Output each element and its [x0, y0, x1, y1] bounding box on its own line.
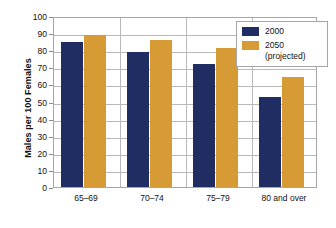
legend-sublabel: (projected)	[265, 51, 306, 62]
bar-chart: Males per 100 Females 100908070605040302…	[0, 0, 336, 228]
y-axis-tick-mark	[49, 137, 53, 138]
y-axis-tick-mark	[49, 68, 53, 69]
legend-label: 2050	[265, 40, 306, 51]
bar	[61, 42, 83, 187]
y-axis-tick-label: 70	[18, 64, 47, 73]
legend-label: 2000	[265, 26, 284, 37]
y-axis-tick-label: 100	[18, 13, 47, 22]
y-axis-tick-mark	[49, 51, 53, 52]
y-axis-tick-mark	[49, 154, 53, 155]
bar	[84, 35, 106, 187]
y-axis-tick-label: 50	[18, 99, 47, 108]
y-axis-tick-mark	[49, 103, 53, 104]
legend-item: 2000	[242, 26, 322, 37]
y-axis-tick-mark	[49, 34, 53, 35]
legend-swatch	[242, 27, 259, 36]
category-separator	[120, 18, 121, 187]
category-separator	[186, 18, 187, 187]
y-axis-tick-label: 10	[18, 167, 47, 176]
y-axis-tick-label: 0	[18, 184, 47, 193]
y-axis-tick-mark	[49, 85, 53, 86]
y-axis-tick-mark	[49, 120, 53, 121]
y-axis-tick-label: 20	[18, 150, 47, 159]
y-axis-tick-mark	[49, 171, 53, 172]
x-axis-tick-label: 80 and over	[251, 193, 317, 204]
x-axis-tick-label: 75–79	[185, 193, 251, 204]
legend-item: 2050(projected)	[242, 40, 322, 62]
bar	[216, 48, 238, 187]
x-axis-tick-labels: 65–6970–7475–7980 and over	[53, 193, 317, 209]
x-axis-tick-label: 70–74	[119, 193, 185, 204]
bar	[282, 77, 304, 187]
y-axis-tick-label: 80	[18, 47, 47, 56]
y-axis-tick-labels: 1009080706050403020100	[18, 17, 47, 188]
bar	[150, 40, 172, 187]
y-axis-tick-label: 30	[18, 133, 47, 142]
bar	[193, 64, 215, 187]
bar	[259, 97, 281, 187]
legend-swatch	[242, 41, 259, 50]
y-axis-tick-mark	[49, 188, 53, 189]
y-axis-tick-label: 90	[18, 30, 47, 39]
y-axis-tick-mark	[49, 17, 53, 18]
x-axis-tick-label: 65–69	[53, 193, 119, 204]
y-axis-tick-label: 60	[18, 81, 47, 90]
bar	[127, 52, 149, 187]
y-axis-tick-label: 40	[18, 116, 47, 125]
chart-legend: 20002050(projected)	[236, 21, 328, 67]
